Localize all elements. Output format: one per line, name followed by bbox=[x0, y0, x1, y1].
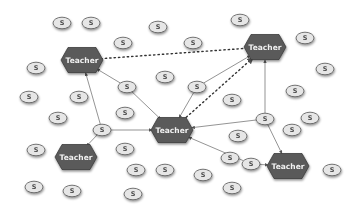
student-node: S bbox=[116, 107, 134, 119]
teacher-node: Teacher bbox=[151, 118, 193, 143]
student-node: S bbox=[184, 37, 202, 49]
student-node: S bbox=[156, 71, 174, 83]
student-node: S bbox=[188, 81, 206, 93]
student-node: S bbox=[286, 85, 304, 97]
student-node: S bbox=[156, 164, 174, 176]
student-label: S bbox=[230, 96, 235, 104]
student-label: S bbox=[195, 83, 200, 91]
student-label: S bbox=[191, 39, 196, 47]
student-label: S bbox=[238, 16, 243, 24]
student-node: S bbox=[316, 63, 334, 75]
student-node: S bbox=[116, 143, 134, 155]
edges-layer bbox=[86, 48, 282, 164]
student-node: S bbox=[25, 181, 43, 193]
student-label: S bbox=[123, 145, 128, 153]
teachers-layer: TeacherTeacherTeacherTeacherTeacher bbox=[55, 35, 309, 179]
student-node: S bbox=[301, 112, 319, 124]
teacher-label: Teacher bbox=[60, 153, 93, 162]
teacher-label: Teacher bbox=[66, 56, 99, 65]
student-label: S bbox=[27, 93, 32, 101]
teacher-label: Teacher bbox=[249, 43, 282, 52]
student-label: S bbox=[60, 19, 65, 27]
student-label: S bbox=[303, 34, 308, 42]
student-node: S bbox=[231, 14, 249, 26]
student-label: S bbox=[201, 171, 206, 179]
student-label: S bbox=[263, 115, 268, 123]
student-node: S bbox=[283, 124, 301, 136]
student-label: S bbox=[32, 183, 37, 191]
edge-s14-to-t2 bbox=[204, 56, 251, 83]
student-label: S bbox=[163, 166, 168, 174]
student-node: S bbox=[242, 158, 260, 170]
student-node: S bbox=[221, 152, 239, 164]
student-node: S bbox=[82, 17, 100, 29]
student-node: S bbox=[27, 144, 45, 156]
student-node: S bbox=[70, 91, 88, 103]
student-label: S bbox=[77, 93, 82, 101]
student-label: S bbox=[290, 126, 295, 134]
student-label: S bbox=[121, 39, 126, 47]
student-label: S bbox=[293, 87, 298, 95]
student-node: S bbox=[114, 37, 132, 49]
student-label: S bbox=[123, 109, 128, 117]
edge-s20-to-t5 bbox=[268, 125, 282, 154]
student-node: S bbox=[53, 17, 71, 29]
student-label: S bbox=[230, 184, 235, 192]
student-node: S bbox=[256, 113, 274, 125]
teacher-student-network-diagram: SSSSSSSSSSSSSSSSSSSSSSSSSSSSSSSSSSS Teac… bbox=[0, 0, 360, 215]
student-label: S bbox=[156, 23, 161, 31]
student-node: S bbox=[20, 91, 38, 103]
student-label: S bbox=[125, 83, 130, 91]
student-node: S bbox=[49, 112, 67, 124]
student-label: S bbox=[308, 114, 313, 122]
edge-s20-to-t3 bbox=[192, 120, 256, 128]
student-node: S bbox=[63, 185, 81, 197]
student-label: S bbox=[34, 146, 39, 154]
student-label: S bbox=[236, 132, 241, 140]
student-node: S bbox=[223, 182, 241, 194]
student-node: S bbox=[118, 81, 136, 93]
teacher-label: Teacher bbox=[272, 162, 305, 171]
teacher-label: Teacher bbox=[156, 126, 189, 135]
student-label: S bbox=[56, 114, 61, 122]
teacher-node: Teacher bbox=[267, 154, 309, 179]
student-label: S bbox=[131, 190, 136, 198]
student-label: S bbox=[323, 65, 328, 73]
teacher-node: Teacher bbox=[55, 145, 97, 170]
teacher-node: Teacher bbox=[244, 35, 286, 60]
student-label: S bbox=[134, 166, 139, 174]
dotted-edge-t1-to-t2 bbox=[101, 48, 245, 58]
edge-s13-to-t3 bbox=[132, 92, 161, 119]
student-label: S bbox=[163, 73, 168, 81]
student-node: S bbox=[229, 130, 247, 142]
student-label: S bbox=[34, 64, 39, 72]
student-label: S bbox=[89, 19, 94, 27]
student-node: S bbox=[149, 21, 167, 33]
edge-s14-to-t3 bbox=[179, 93, 194, 118]
student-node: S bbox=[93, 124, 111, 136]
student-label: S bbox=[249, 160, 254, 168]
student-label: S bbox=[330, 166, 335, 174]
student-label: S bbox=[228, 154, 233, 162]
student-node: S bbox=[323, 164, 341, 176]
student-node: S bbox=[124, 188, 142, 200]
student-node: S bbox=[223, 94, 241, 106]
student-node: S bbox=[27, 62, 45, 74]
teacher-node: Teacher bbox=[61, 48, 103, 73]
student-label: S bbox=[100, 126, 105, 134]
student-label: S bbox=[70, 187, 75, 195]
student-node: S bbox=[296, 32, 314, 44]
student-node: S bbox=[127, 164, 145, 176]
student-node: S bbox=[194, 169, 212, 181]
edge-s13-to-t1 bbox=[97, 69, 121, 83]
